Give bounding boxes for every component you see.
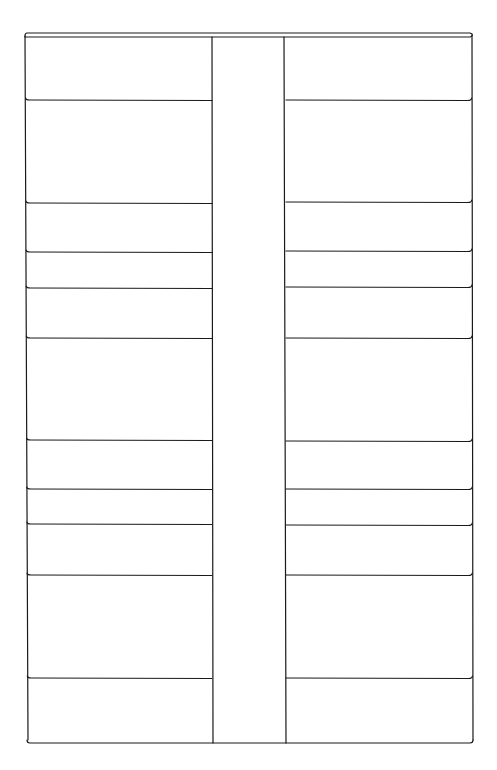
right-row-divider bbox=[286, 249, 472, 252]
divider-group bbox=[26, 98, 473, 679]
right-row-divider bbox=[286, 439, 472, 442]
left-outer-edge bbox=[25, 36, 28, 740]
outline-group bbox=[25, 33, 473, 743]
corridor-right-wall bbox=[284, 37, 286, 743]
right-outer-edge bbox=[472, 35, 473, 740]
left-row-divider bbox=[27, 522, 212, 525]
right-row-divider bbox=[286, 523, 472, 526]
right-row-divider bbox=[286, 98, 472, 101]
right-row-divider bbox=[286, 285, 472, 288]
right-row-divider bbox=[286, 336, 472, 339]
left-row-divider bbox=[27, 676, 212, 679]
right-row-divider bbox=[286, 200, 472, 203]
right-row-divider bbox=[286, 573, 472, 576]
left-row-divider bbox=[27, 438, 212, 441]
left-row-divider bbox=[26, 336, 212, 339]
right-row-divider bbox=[286, 676, 472, 679]
corridor-left-wall bbox=[212, 37, 213, 743]
left-row-divider bbox=[26, 98, 212, 101]
left-row-divider bbox=[26, 286, 212, 289]
left-row-divider bbox=[27, 573, 212, 576]
left-row-divider bbox=[27, 487, 212, 490]
left-row-divider bbox=[26, 250, 212, 253]
left-row-divider bbox=[26, 201, 212, 204]
layout-diagram bbox=[0, 0, 497, 770]
right-row-divider bbox=[286, 487, 472, 490]
bottom-edge bbox=[27, 740, 473, 743]
top-edge bbox=[25, 33, 472, 37]
